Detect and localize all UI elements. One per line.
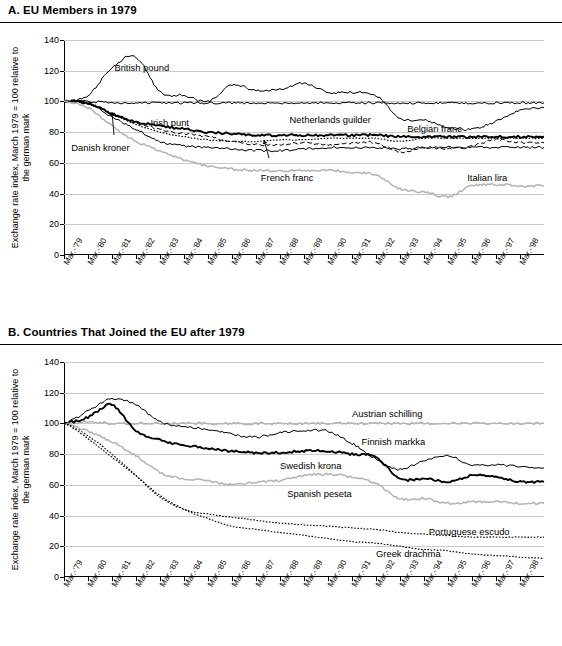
- y-tick-label: 80: [29, 127, 59, 137]
- panel-b: B. Countries That Joined the EU after 19…: [0, 322, 562, 646]
- y-tick-label: 0: [29, 572, 59, 582]
- series-annotation-label: Netherlands guilder: [290, 114, 371, 125]
- y-tick-label: 0: [29, 250, 59, 260]
- y-tick-label: 60: [29, 480, 59, 490]
- figure-root: A. EU Members in 1979 Exchange rate inde…: [0, 0, 562, 646]
- series-line: [64, 424, 544, 538]
- y-tick-label: 20: [29, 219, 59, 229]
- series-annotation-label: Belgian franc: [407, 123, 462, 134]
- panel-a: A. EU Members in 1979 Exchange rate inde…: [0, 0, 562, 322]
- series-annotation-label: French franc: [261, 172, 314, 183]
- series-line: [64, 101, 544, 152]
- y-tick-label: 120: [29, 388, 59, 398]
- y-tick-label: 20: [29, 541, 59, 551]
- y-tick-label: 40: [29, 189, 59, 199]
- series-line: [64, 100, 544, 104]
- panel-b-divider: [0, 344, 562, 345]
- panel-b-plot: 020406080100120140 Mar.-'79Mar.-'80Mar.-…: [64, 362, 544, 577]
- series-annotation-label: British pound: [114, 62, 169, 73]
- series-annotation-label: Irish punt: [150, 117, 189, 128]
- y-tick-label: 140: [29, 35, 59, 45]
- panel-b-title: B. Countries That Joined the EU after 19…: [8, 326, 245, 338]
- y-tick-label: 120: [29, 66, 59, 76]
- y-tick-label: 80: [29, 449, 59, 459]
- series-annotation-label: Finnish markka: [362, 436, 426, 447]
- series-annotation-label: Swedish krona: [280, 460, 342, 471]
- panel-a-plot: 020406080100120140 Mar.-'79Mar.-'80Mar.-…: [64, 40, 544, 255]
- series-annotation-label: Italian lira: [467, 172, 507, 183]
- y-tick-label: 40: [29, 511, 59, 521]
- y-tick-label: 100: [29, 418, 59, 428]
- series-annotation-label: Portuguese escudo: [429, 526, 510, 537]
- series-annotation-label: Spanish peseta: [287, 488, 352, 499]
- y-tick-label: 60: [29, 158, 59, 168]
- series-line: [64, 421, 544, 424]
- panel-a-divider: [0, 22, 562, 23]
- series-annotation-label: Greek drachma: [376, 548, 441, 559]
- y-tick-label: 140: [29, 357, 59, 367]
- series-annotation-label: Danish kroner: [71, 142, 129, 153]
- y-tick-label: 100: [29, 96, 59, 106]
- panel-a-title: A. EU Members in 1979: [8, 4, 137, 16]
- series-annotation-label: Austrian schilling: [352, 408, 422, 419]
- series-line: [64, 101, 544, 153]
